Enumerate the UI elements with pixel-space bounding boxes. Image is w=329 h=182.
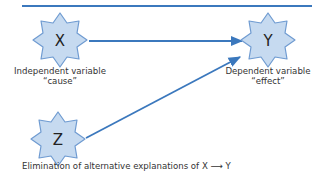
node-letter: Z [53, 131, 63, 149]
node-x-label: Independent variable “cause” [10, 66, 110, 86]
dependent-variable-label: Dependent variable [218, 66, 318, 76]
node-y-label: Dependent variable “effect” [218, 66, 318, 86]
independent-variable-label: Independent variable [10, 66, 110, 76]
effect-label: “effect” [218, 76, 318, 86]
caption: Elimination of alternative explanations … [22, 161, 231, 171]
node-letter: Y [262, 32, 273, 50]
node-letter: X [55, 32, 65, 50]
causal-diagram: X Y Z [0, 0, 329, 182]
node-y: Y [241, 13, 295, 67]
node-x: X [33, 13, 87, 67]
node-z: Z [31, 112, 85, 166]
cause-label: “cause” [10, 76, 110, 86]
